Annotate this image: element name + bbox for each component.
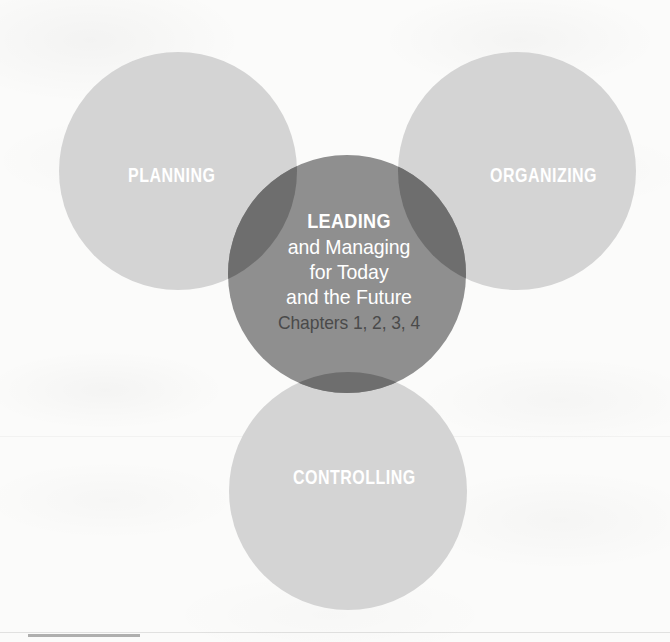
circle-label-planning: PLANNING <box>128 164 215 187</box>
circle-label-organizing: ORGANIZING <box>490 164 597 187</box>
circle-label-controlling: CONTROLLING <box>293 466 416 489</box>
center-line-1: and Managing <box>256 234 442 259</box>
center-line-3: and the Future <box>256 284 442 309</box>
center-chapters: Chapters 1, 2, 3, 4 <box>257 310 441 336</box>
center-line-2: for Today <box>256 259 442 284</box>
center-text-block: LEADING and Managing for Today and the F… <box>249 208 449 336</box>
venn-diagram-figure: PLANNING ORGANIZING CONTROLLING LEADING … <box>0 0 670 642</box>
center-headline: LEADING <box>263 208 435 234</box>
circle-controlling <box>229 372 467 610</box>
